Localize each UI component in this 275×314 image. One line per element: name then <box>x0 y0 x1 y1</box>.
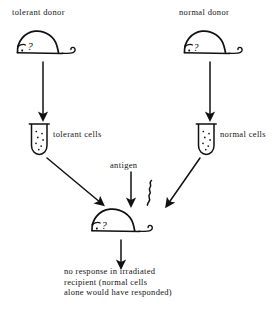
label-tolerant-donor: tolerant donor <box>12 7 65 18</box>
caption-line-1: no response in irradiated <box>64 266 224 277</box>
label-normal-donor: normal donor <box>179 7 229 18</box>
test-tube-icon-normal <box>196 124 216 154</box>
figure-canvas: ? ? <box>0 0 275 314</box>
caption-line-2: recipient (normal cells <box>64 277 224 288</box>
label-antigen: antigen <box>110 160 137 171</box>
svg-text:?: ? <box>102 220 108 231</box>
squiggle-icon-antigen <box>147 181 151 206</box>
mouse-icon-normal-donor: ? <box>184 31 242 53</box>
svg-text:?: ? <box>194 42 199 53</box>
label-tolerant-cells: tolerant cells <box>53 129 102 140</box>
arrow-diagonal-icon-left <box>47 158 101 203</box>
mouse-icon-tolerant-donor: ? <box>17 31 75 53</box>
result-caption: no response in irradiated recipient (nor… <box>64 266 224 298</box>
svg-text:?: ? <box>28 41 34 52</box>
mouse-icon-recipient: ? <box>92 209 153 231</box>
caption-line-3: alone would have responded) <box>64 287 224 298</box>
arrow-diagonal-icon-right <box>168 158 200 204</box>
test-tube-icon-tolerant <box>29 124 49 154</box>
label-normal-cells: normal cells <box>220 129 266 140</box>
